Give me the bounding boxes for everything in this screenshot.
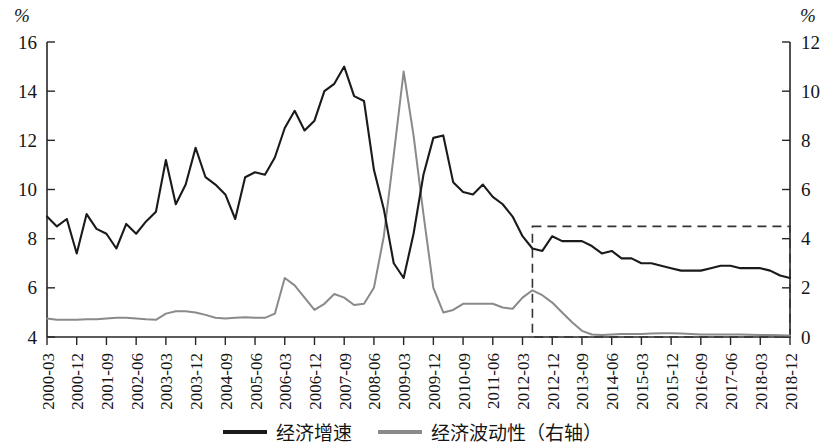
legend-item-growth: 经济增速: [223, 418, 352, 445]
economic-growth-volatility-chart: 46810121416 024681012 2000-032000-122001…: [0, 0, 825, 448]
left-axis-tick-label: 8: [28, 228, 38, 249]
x-axis-tick-label: 2000-12: [68, 353, 87, 410]
x-axis-tick-labels: 2000-032000-122001-092002-062003-032003-…: [39, 353, 801, 410]
right-axis-tick-label: 10: [801, 81, 820, 102]
right-axis-tick-label: 6: [801, 179, 811, 200]
x-axis-tick-label: 2018-12: [782, 353, 801, 410]
x-axis-tick-label: 2014-06: [603, 353, 622, 410]
x-axis-tick-label: 2015-03: [633, 353, 652, 410]
x-axis-tick-label: 2008-06: [365, 353, 384, 410]
legend-label-volatility: 经济波动性（右轴）: [431, 418, 602, 445]
x-axis-tick-label: 2018-03: [752, 353, 771, 410]
x-axis-ticks: [47, 337, 790, 345]
x-axis-tick-label: 2006-03: [276, 353, 295, 410]
legend-item-volatility: 经济波动性（右轴）: [378, 418, 602, 445]
left-axis-tick-label: 14: [18, 81, 38, 102]
left-axis-tick-label: 6: [28, 277, 38, 298]
x-axis-tick-label: 2003-03: [157, 353, 176, 410]
right-axis-unit-label: %: [800, 5, 816, 26]
left-axis-tick-label: 4: [28, 327, 38, 348]
x-axis-tick-label: 2009-12: [425, 353, 444, 410]
x-axis-tick-label: 2001-09: [98, 353, 117, 410]
left-axis-unit-label: %: [14, 5, 30, 26]
left-axis-tick-label: 10: [18, 179, 37, 200]
right-axis-tick-labels: 024681012: [801, 32, 820, 348]
left-axis-tick-label: 16: [18, 32, 37, 53]
right-axis-tick-label: 2: [801, 277, 811, 298]
left-axis-ticks: [47, 42, 55, 337]
left-axis-tick-labels: 46810121416: [18, 32, 38, 348]
legend-swatch-volatility-icon: [378, 430, 422, 434]
x-axis-tick-label: 2002-06: [128, 353, 147, 410]
x-axis-tick-label: 2004-09: [217, 353, 236, 410]
x-axis-tick-label: 2013-09: [573, 353, 592, 410]
right-axis-tick-label: 0: [801, 327, 811, 348]
legend-swatch-growth-icon: [223, 430, 267, 434]
chart-canvas: 46810121416 024681012 2000-032000-122001…: [0, 0, 825, 448]
x-axis-tick-label: 2005-06: [247, 353, 266, 410]
chart-legend: 经济增速 经济波动性（右轴）: [0, 418, 825, 445]
x-axis-tick-label: 2003-12: [187, 353, 206, 410]
x-axis-tick-label: 2007-09: [336, 353, 355, 410]
x-axis-tick-label: 2006-12: [306, 353, 325, 410]
legend-label-growth: 经济增速: [276, 418, 352, 445]
right-axis-tick-label: 4: [801, 228, 811, 249]
x-axis-tick-label: 2010-09: [455, 353, 474, 410]
right-axis-tick-label: 8: [801, 130, 811, 151]
left-axis-tick-label: 12: [18, 130, 37, 151]
x-axis-tick-label: 2016-09: [692, 353, 711, 410]
x-axis-tick-label: 2000-03: [39, 353, 58, 410]
x-axis-tick-label: 2012-12: [544, 353, 563, 410]
x-axis-tick-label: 2012-03: [514, 353, 533, 410]
right-axis-tick-label: 12: [801, 32, 820, 53]
x-axis-tick-label: 2017-06: [722, 353, 741, 410]
x-axis-tick-label: 2009-03: [395, 353, 414, 410]
x-axis-tick-label: 2011-06: [484, 353, 503, 409]
right-axis-ticks: [782, 42, 790, 337]
x-axis-tick-label: 2015-12: [663, 353, 682, 410]
